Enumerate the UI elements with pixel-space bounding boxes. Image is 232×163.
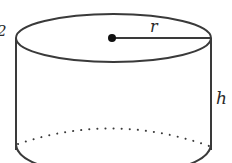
bottom-front-curve-right	[187, 145, 211, 163]
height-label: h	[216, 88, 227, 108]
cylinder-diagram: 2 r h	[0, 0, 232, 163]
left-edge-label-fragment: 2	[0, 22, 7, 40]
bottom-hidden-arc-dotted	[18, 128, 209, 146]
bottom-front-curve-left	[16, 145, 40, 163]
radius-label: r	[150, 17, 159, 36]
center-point	[108, 34, 116, 42]
